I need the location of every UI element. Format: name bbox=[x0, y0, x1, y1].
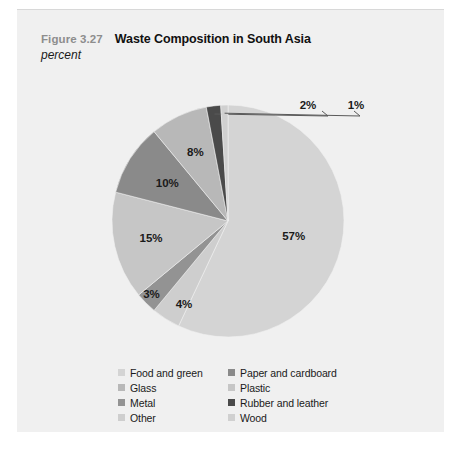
legend-swatch-icon bbox=[118, 369, 125, 376]
legend-label: Rubber and leather bbox=[240, 397, 328, 409]
legend-item: Paper and cardboard bbox=[228, 365, 358, 380]
legend-swatch-icon bbox=[118, 414, 125, 421]
legend-label: Other bbox=[130, 412, 156, 424]
legend-swatch-icon bbox=[228, 369, 235, 376]
slice-value-label: 2% bbox=[300, 99, 317, 111]
legend-label: Metal bbox=[130, 397, 155, 409]
legend-item: Rubber and leather bbox=[228, 395, 358, 410]
legend-swatch-icon bbox=[228, 399, 235, 406]
legend-swatch-icon bbox=[118, 399, 125, 406]
legend-item: Other bbox=[118, 410, 228, 425]
slice-value-label: 10% bbox=[156, 177, 179, 189]
legend-item: Food and green bbox=[118, 365, 228, 380]
legend-item: Plastic bbox=[228, 380, 358, 395]
slice-value-label: 4% bbox=[176, 298, 193, 310]
legend-swatch-icon bbox=[228, 414, 235, 421]
legend-item: Glass bbox=[118, 380, 228, 395]
chart-legend: Food and greenPaper and cardboardGlassPl… bbox=[118, 365, 368, 425]
slice-value-label: 8% bbox=[187, 146, 204, 158]
slice-value-label: 57% bbox=[282, 230, 305, 242]
legend-label: Paper and cardboard bbox=[240, 367, 337, 379]
legend-swatch-icon bbox=[118, 384, 125, 391]
legend-label: Wood bbox=[240, 412, 267, 424]
legend-item: Metal bbox=[118, 395, 228, 410]
legend-swatch-icon bbox=[228, 384, 235, 391]
slice-value-label: 1% bbox=[348, 99, 365, 111]
legend-label: Food and green bbox=[130, 367, 203, 379]
figure-panel: Figure 3.27 Waste Composition in South A… bbox=[17, 9, 444, 432]
legend-label: Glass bbox=[130, 382, 156, 394]
legend-label: Plastic bbox=[240, 382, 270, 394]
slice-value-label: 15% bbox=[139, 232, 162, 244]
legend-item: Wood bbox=[228, 410, 358, 425]
